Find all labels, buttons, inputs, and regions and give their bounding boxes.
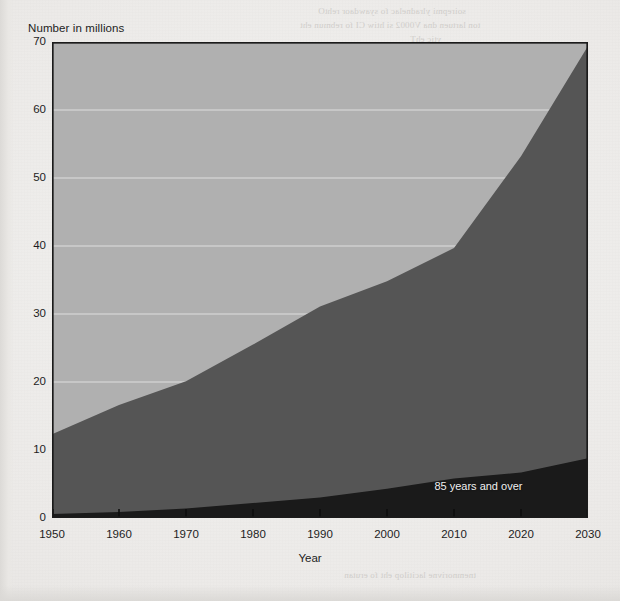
x-tick-label-2030: 2030: [558, 529, 618, 541]
chart-page: soirepmi ylradnelac fo syawdaor rehtOton…: [0, 0, 620, 601]
y-tick-label-20: 20: [2, 376, 46, 388]
x-tick-label-1970: 1970: [156, 529, 216, 541]
x-tick-label-2020: 2020: [491, 529, 551, 541]
x-tick-label-1960: 1960: [89, 529, 149, 541]
y-tick-label-60: 60: [2, 104, 46, 116]
x-tick-label-2010: 2010: [424, 529, 484, 541]
y-tick-label-40: 40: [2, 240, 46, 252]
area-chart-svg: [52, 42, 588, 518]
series-inline-label-85-years-and-over: 85 years and over: [434, 480, 522, 492]
y-tick-label-10: 10: [2, 444, 46, 456]
y-axis-title: Number in millions: [28, 22, 124, 34]
x-tick-label-1980: 1980: [223, 529, 283, 541]
x-tick-label-1950: 1950: [22, 529, 82, 541]
y-tick-label-0: 0: [2, 512, 46, 524]
y-tick-label-70: 70: [2, 36, 46, 48]
plot-area: 85 years and over: [52, 42, 588, 518]
x-tick-label-1990: 1990: [290, 529, 350, 541]
x-axis-title: Year: [0, 552, 620, 564]
y-tick-label-30: 30: [2, 308, 46, 320]
y-tick-label-50: 50: [2, 172, 46, 184]
x-tick-label-2000: 2000: [357, 529, 417, 541]
